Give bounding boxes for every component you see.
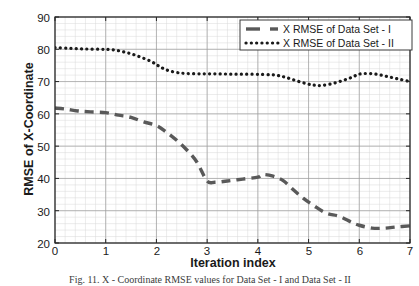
legend-label: X RMSE of Data Set - II xyxy=(283,37,394,49)
y-tick-label: 70 xyxy=(24,76,50,88)
x-tick-label: 4 xyxy=(248,245,268,257)
y-tick-label: 90 xyxy=(24,12,50,24)
y-tick-label: 80 xyxy=(24,44,50,56)
series-layer xyxy=(55,48,410,229)
plot-area: X RMSE of Data Set - IX RMSE of Data Set… xyxy=(0,0,419,286)
x-axis-title: Iteration index xyxy=(55,256,411,270)
series-line-1 xyxy=(55,108,410,228)
x-tick-label: 6 xyxy=(350,245,370,257)
y-axis-title: RMSE of X-Coordinate xyxy=(22,34,36,224)
legend-label: X RMSE of Data Set - I xyxy=(283,23,391,35)
x-tick-label: 2 xyxy=(147,245,167,257)
x-tick-label: 3 xyxy=(197,245,217,257)
x-tick-label: 0 xyxy=(45,245,65,257)
x-tick-label: 1 xyxy=(96,245,116,257)
legend[interactable]: X RMSE of Data Set - IX RMSE of Data Set… xyxy=(240,20,412,50)
series-line-2 xyxy=(55,48,410,86)
figure-container: RMSE of X-Coordinate Iteration index 90 … xyxy=(0,0,419,286)
y-tick-label: 40 xyxy=(24,173,50,185)
y-tick-label: 60 xyxy=(24,109,50,121)
y-tick-label: 30 xyxy=(24,206,50,218)
x-tick-label: 5 xyxy=(299,245,319,257)
figure-caption: Fig. 11. X - Coordinate RMSE values for … xyxy=(20,274,400,285)
x-tick-label: 7 xyxy=(400,245,419,257)
y-tick-label: 50 xyxy=(24,141,50,153)
